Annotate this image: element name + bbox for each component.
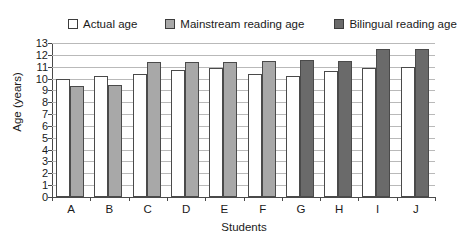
y-axis-tick-mark	[48, 114, 52, 115]
y-axis-tick-label: 4	[28, 145, 48, 156]
bar-group	[129, 43, 167, 197]
bar-group	[320, 43, 358, 197]
bar-group	[244, 43, 282, 197]
y-axis-tick-labels: 012345678910111213	[24, 0, 48, 242]
x-axis-tick-label: H	[329, 203, 349, 215]
y-axis-tick-label: 12	[28, 50, 48, 61]
x-axis-tick-mark	[397, 197, 398, 201]
x-axis-tick-mark	[90, 197, 91, 201]
x-axis-tick-label: C	[138, 203, 158, 215]
bar	[209, 68, 223, 197]
bar	[262, 61, 276, 197]
bar	[223, 62, 237, 197]
x-axis-tick-mark	[52, 197, 53, 201]
x-axis-tick-label: F	[253, 203, 273, 215]
legend-swatch-icon	[68, 19, 78, 29]
y-axis-tick-mark	[48, 161, 52, 162]
x-axis-tick-mark	[320, 197, 321, 201]
chart-legend: Actual ageMainstream reading ageBilingua…	[62, 16, 440, 32]
bar-group	[167, 43, 205, 197]
y-axis-title: Age (years)	[11, 57, 23, 147]
bar	[56, 79, 70, 197]
bar	[147, 62, 161, 197]
bar	[338, 61, 352, 197]
bar	[415, 49, 429, 197]
x-axis-tick-label: G	[291, 203, 311, 215]
y-axis-tick-label: 13	[28, 38, 48, 49]
bar	[133, 74, 147, 197]
y-axis-tick-label: 9	[28, 85, 48, 96]
bar-group	[52, 43, 90, 197]
y-axis-tick-label: 11	[28, 62, 48, 73]
bar	[108, 85, 122, 197]
x-axis-tick-mark	[358, 197, 359, 201]
y-axis-tick-mark	[48, 138, 52, 139]
bar	[362, 68, 376, 197]
x-axis-tick-label: A	[61, 203, 81, 215]
y-axis-tick-mark	[48, 90, 52, 91]
x-axis-tick-label: D	[176, 203, 196, 215]
legend-item-label: Actual age	[83, 18, 137, 30]
y-axis-tick-mark	[48, 55, 52, 56]
x-axis-tick-label: E	[214, 203, 234, 215]
x-axis-tick-mark	[129, 197, 130, 201]
bar	[248, 74, 262, 197]
bar-group	[397, 43, 435, 197]
legend-item: Actual age	[68, 18, 137, 30]
bar	[300, 60, 314, 197]
y-axis-tick-label: 3	[28, 156, 48, 167]
bar	[324, 71, 338, 197]
bar	[171, 70, 185, 197]
x-axis-tick-mark	[205, 197, 206, 201]
plot-area	[52, 43, 435, 197]
x-axis-tick-label: J	[406, 203, 426, 215]
legend-item-label: Mainstream reading age	[180, 18, 304, 30]
legend-item-label: Bilingual reading age	[349, 18, 456, 30]
bar-group	[358, 43, 396, 197]
bar	[376, 49, 390, 197]
y-axis-tick-label: 5	[28, 133, 48, 144]
x-axis-tick-mark	[167, 197, 168, 201]
x-axis-tick-mark	[435, 197, 436, 201]
x-axis-tick-label: I	[368, 203, 388, 215]
bar-group	[282, 43, 320, 197]
y-axis-tick-label: 10	[28, 74, 48, 85]
y-axis-tick-mark	[48, 43, 52, 44]
legend-item: Bilingual reading age	[334, 18, 456, 30]
y-axis-tick-mark	[48, 102, 52, 103]
y-axis-tick-mark	[48, 150, 52, 151]
bar	[94, 76, 108, 197]
bar	[185, 62, 199, 197]
bar	[286, 76, 300, 197]
bar-group	[90, 43, 128, 197]
x-axis-tick-mark	[244, 197, 245, 201]
y-axis-tick-label: 1	[28, 180, 48, 191]
bar	[70, 86, 84, 197]
y-axis-tick-label: 0	[28, 192, 48, 203]
y-axis-tick-label: 7	[28, 109, 48, 120]
x-axis-title: Students	[52, 221, 436, 233]
y-axis-tick-label: 2	[28, 168, 48, 179]
y-axis-tick-mark	[48, 185, 52, 186]
x-axis-tick-mark	[282, 197, 283, 201]
y-axis-tick-mark	[48, 67, 52, 68]
y-axis-tick-label: 8	[28, 97, 48, 108]
y-axis-tick-mark	[48, 79, 52, 80]
x-axis-tick-label: B	[99, 203, 119, 215]
legend-swatch-icon	[165, 19, 175, 29]
legend-swatch-icon	[334, 19, 344, 29]
y-axis-tick-mark	[48, 173, 52, 174]
bar	[401, 67, 415, 197]
y-axis-tick-mark	[48, 126, 52, 127]
bar-group	[205, 43, 243, 197]
legend-item: Mainstream reading age	[165, 18, 304, 30]
y-axis-tick-label: 6	[28, 121, 48, 132]
